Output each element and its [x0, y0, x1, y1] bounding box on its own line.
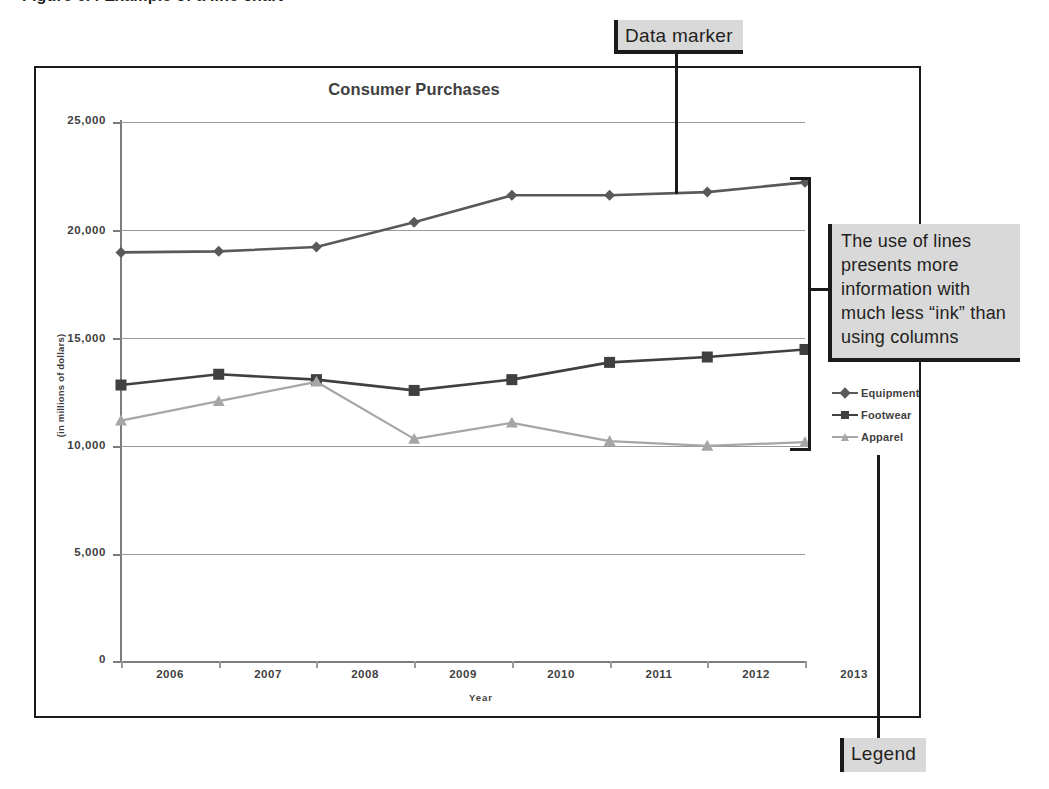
- chart-outer-frame: [34, 66, 921, 718]
- x-tick-0: [121, 661, 123, 668]
- chart-legend: Equipment Footwear Apparel: [832, 382, 942, 448]
- y-axis-title: (in millions of dollars): [55, 286, 66, 486]
- gridline-5000: [121, 554, 805, 555]
- legend-item-apparel[interactable]: Apparel: [832, 426, 942, 448]
- y-tick-20000: [113, 230, 121, 232]
- gridline-10000: [121, 446, 805, 447]
- x-tick-label-2009: 2009: [423, 668, 503, 680]
- y-axis-tick-labels: 25,000 20,000 15,000 10,000 5,000 0: [40, 0, 106, 789]
- gridline-25000: [121, 122, 805, 123]
- x-tick-label-2011: 2011: [619, 668, 699, 680]
- y-tick-label-15000: 15,000: [40, 332, 106, 344]
- y-tick-label-10000: 10,000: [40, 439, 106, 451]
- x-tick-3: [414, 661, 416, 668]
- x-tick-6: [707, 661, 709, 668]
- annotation-bracket-vertical: [808, 177, 811, 451]
- square-marker-icon: [832, 408, 858, 422]
- y-tick-15000: [113, 338, 121, 340]
- legend-label-footwear: Footwear: [861, 409, 912, 421]
- gridline-15000: [121, 338, 805, 339]
- y-tick-5000: [113, 554, 121, 556]
- triangle-marker-icon: [832, 430, 858, 444]
- x-tick-2: [316, 661, 318, 668]
- x-tick-7: [805, 661, 807, 668]
- x-tick-label-2013: 2013: [814, 668, 894, 680]
- annotation-bracket-bottom-arm: [790, 448, 811, 451]
- x-tick-5: [610, 661, 612, 668]
- legend-item-equipment[interactable]: Equipment: [832, 382, 942, 404]
- chart-title: Consumer Purchases: [34, 80, 794, 99]
- x-axis-title: Year: [421, 692, 541, 703]
- legend-label-equipment: Equipment: [861, 387, 920, 399]
- y-axis-line: [120, 120, 122, 663]
- x-tick-label-2006: 2006: [130, 668, 210, 680]
- y-tick-label-25000: 25,000: [40, 114, 106, 126]
- callout-data-marker: Data marker: [614, 20, 743, 54]
- annotation-text-box: The use of lines presents more informati…: [828, 224, 1020, 362]
- diamond-marker-icon: [832, 386, 858, 400]
- annotation-bracket-top-arm: [790, 177, 811, 180]
- legend-leader-line: [877, 455, 880, 740]
- y-tick-label-5000: 5,000: [40, 546, 106, 558]
- x-tick-4: [512, 661, 514, 668]
- y-tick-25000: [113, 122, 121, 124]
- x-tick-label-2007: 2007: [228, 668, 308, 680]
- legend-item-footwear[interactable]: Footwear: [832, 404, 942, 426]
- x-tick-label-2008: 2008: [325, 668, 405, 680]
- y-tick-label-20000: 20,000: [40, 224, 106, 236]
- y-tick-10000: [113, 446, 121, 448]
- legend-label-apparel: Apparel: [861, 431, 903, 443]
- callout-legend: Legend: [840, 738, 926, 772]
- x-tick-label-2010: 2010: [521, 668, 601, 680]
- x-tick-label-2012: 2012: [716, 668, 796, 680]
- gridline-20000: [121, 230, 805, 231]
- y-tick-label-0: 0: [40, 653, 106, 665]
- data-marker-leader-line: [675, 54, 678, 194]
- x-tick-1: [219, 661, 221, 668]
- x-axis-line: [121, 661, 805, 663]
- y-tick-0: [113, 661, 121, 663]
